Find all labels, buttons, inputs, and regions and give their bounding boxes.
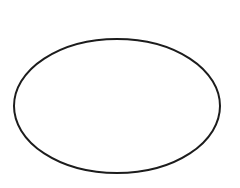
diagram-canvas (0, 0, 240, 188)
background (0, 0, 240, 188)
